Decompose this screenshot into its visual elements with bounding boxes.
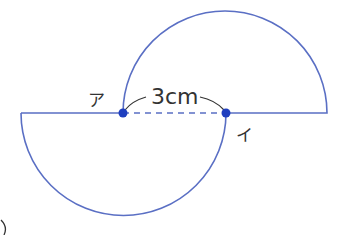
label-i: イ [236,125,253,145]
bottom-semicircle [21,113,226,215]
leader-line-right [200,97,224,110]
label-a: ア [88,90,105,110]
point-a [119,109,128,118]
cropped-bracket [1,220,5,235]
measurement-label: 3cm [151,84,199,109]
point-i [222,109,231,118]
diagram-canvas: ア 3cm イ [0,0,351,235]
leader-line-left [125,97,146,110]
